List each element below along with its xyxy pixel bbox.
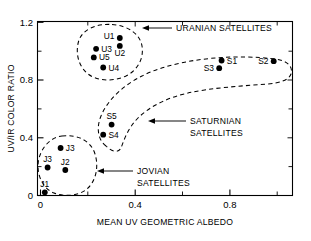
y-tick-label-3: 1.2	[20, 17, 33, 28]
annotation-jovian: JOVIAN SATELLITES	[137, 166, 190, 188]
y-axis-title: UV/IR COLOR RATIO	[6, 64, 16, 152]
annotation-uranian: URANIAN SATELLITES	[176, 23, 272, 33]
point-label-s5: S5	[106, 111, 117, 121]
jovian-leader-arrow	[97, 168, 104, 174]
point-label-s4: S4	[108, 130, 119, 140]
point-label-u5: U5	[99, 52, 110, 62]
series-uranian-points: U1 U2 U3 U5 U4	[91, 31, 126, 73]
data-point-u1	[117, 35, 123, 41]
scatter-chart-figure: 0 0.4 0.8 0 0.4 0.8 1.2 MEAN UV GEOMETRI…	[0, 0, 311, 241]
uranian-leader-arrow	[142, 25, 149, 31]
x-tick-label-2: 0.8	[223, 199, 236, 210]
y-tick-labels: 0 0.4 0.8 1.2	[20, 17, 33, 201]
data-point-j3-lower	[45, 165, 51, 171]
point-label-s3: S3	[204, 63, 215, 73]
data-point-j1	[42, 189, 48, 195]
x-tick-labels: 0 0.4 0.8	[38, 199, 237, 210]
saturnian-leader-arrow	[148, 118, 155, 124]
x-tick-label-1: 0.4	[129, 199, 142, 210]
annotation-saturnian: SATURNIAN SATELLITES	[190, 116, 243, 138]
x-axis-title: MEAN UV GEOMETRIC ALBEDO	[97, 217, 233, 227]
point-label-s1: S1	[227, 56, 238, 66]
x-tick-label-0: 0	[38, 199, 43, 210]
data-point-u5	[91, 55, 97, 61]
y-tick-label-0: 0	[28, 190, 33, 201]
data-point-u3	[93, 46, 99, 52]
data-point-s3	[216, 65, 222, 71]
data-point-s4	[100, 132, 106, 138]
data-point-j2	[62, 167, 68, 173]
point-label-u1: U1	[104, 31, 115, 41]
point-label-j3-lower: J3	[43, 154, 52, 164]
y-tick-label-1: 0.4	[20, 132, 33, 143]
saturnian-annotation-line-1: SATURNIAN	[190, 116, 241, 126]
data-point-s5	[109, 122, 115, 128]
data-point-s2	[271, 58, 277, 64]
point-label-j3-upper: J3	[66, 143, 75, 153]
series-jovian-points: J3 J3 J2 J1	[40, 143, 75, 195]
point-label-s2: S2	[258, 56, 269, 66]
series-saturnian-points: S1 S2 S3 S5 S4	[100, 56, 276, 140]
point-label-u2: U2	[114, 48, 125, 58]
data-point-j3-upper	[58, 145, 64, 151]
data-point-s1	[219, 58, 225, 64]
y-tick-label-2: 0.8	[20, 74, 33, 85]
point-label-j1: J1	[40, 179, 49, 189]
saturnian-annotation-line-2: SATELLITES	[190, 128, 243, 138]
data-point-u4	[100, 65, 106, 71]
point-label-u4: U4	[108, 63, 119, 73]
jovian-annotation-line-2: SATELLITES	[137, 178, 190, 188]
plot-canvas: 0 0.4 0.8 0 0.4 0.8 1.2 MEAN UV GEOMETRI…	[0, 0, 311, 241]
point-label-j2: J2	[61, 157, 70, 167]
uranian-annotation-line-1: URANIAN SATELLITES	[176, 23, 272, 33]
jovian-annotation-line-1: JOVIAN	[137, 166, 170, 176]
